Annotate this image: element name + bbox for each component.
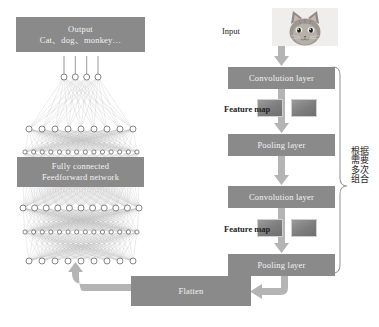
input-label: Input	[222, 26, 240, 36]
bracket-note: 根 需 多 组 据 要 次 合	[351, 147, 369, 185]
cat-photo-icon	[272, 8, 338, 46]
feature-map-label-2: Feature map	[224, 224, 270, 234]
fully-connected-box: Fully connected Feedforward network	[17, 157, 144, 187]
block-convolution-layer-1: Convolution layer	[228, 67, 335, 89]
arrow-flatten-to-network	[68, 262, 132, 291]
input-image	[272, 8, 338, 46]
block-convolution-layer-2: Convolution layer	[228, 186, 335, 208]
bracket-note-col-2: 据 要 次 合	[360, 147, 369, 185]
arrow-pool2-to-flatten	[250, 276, 288, 299]
block-pooling-layer-1: Pooling layer	[228, 134, 335, 156]
block-pooling-layer-2: Pooling layer	[228, 254, 335, 276]
block-label: Convolution layer	[249, 73, 314, 84]
block-label: Pooling layer	[257, 260, 305, 271]
fc-box-line2: Feedforward network	[42, 172, 119, 183]
arrow-input-to-conv1	[274, 46, 289, 66]
feature-map-thumb-1b	[291, 99, 317, 117]
output-box-line2: Cat、dog、monkey…	[40, 35, 121, 46]
output-box: Output Cat、dog、monkey…	[16, 17, 145, 52]
flatten-label: Flatten	[178, 286, 203, 297]
block-label: Pooling layer	[257, 140, 305, 151]
arrow-pool1-to-conv2	[274, 156, 289, 185]
feature-map-thumb-2b	[291, 219, 317, 237]
grouping-bracket	[333, 67, 347, 273]
bracket-note-char: 合	[360, 175, 369, 184]
block-label: Convolution layer	[249, 192, 314, 203]
output-box-line1: Output	[68, 24, 93, 35]
flatten-box: Flatten	[131, 276, 251, 306]
feature-map-label-1: Feature map	[224, 104, 270, 114]
fc-box-line1: Fully connected	[52, 161, 110, 172]
bracket-note-col-1: 根 需 多 组	[351, 147, 360, 185]
diagram-canvas: Output Cat、dog、monkey… Fully connected F…	[0, 0, 379, 327]
bracket-note-char: 组	[351, 175, 360, 184]
